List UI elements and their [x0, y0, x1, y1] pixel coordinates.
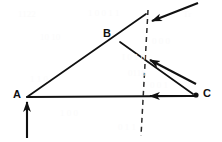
ghost-text-fragment: 0 1 1	[118, 122, 136, 132]
ghost-text-fragment: 0 0 1	[150, 80, 168, 90]
ghost-text-fragment: 1122	[18, 9, 36, 19]
vertex-label-a: A	[13, 89, 21, 100]
ghost-text-fragment: I 0 1 0	[122, 52, 145, 62]
geometry-figure: 11221 0 0 1 1Tr10 100 0 0I 0 1 001101 1 …	[0, 0, 222, 142]
point-marker-c	[193, 92, 198, 97]
ghost-text-fragment: 1 1 0	[30, 74, 48, 84]
ghost-text-fragment: Tr	[183, 9, 191, 19]
vertex-label-c: C	[203, 88, 211, 99]
figure-canvas	[0, 0, 222, 142]
ghost-text-fragment: 10 10	[40, 32, 60, 42]
ghost-text-fragment: 0 0 0	[152, 36, 170, 46]
ghost-text-fragment: 1 0 0 1 1	[88, 8, 120, 18]
ghost-text-fragment: 1 0 0	[60, 108, 78, 118]
vertex-label-b: B	[103, 28, 111, 39]
ghost-text-fragment: 0110	[128, 68, 146, 78]
